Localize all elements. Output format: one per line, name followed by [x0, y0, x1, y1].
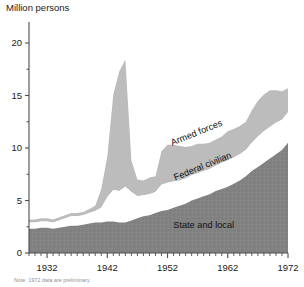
x-tick-labels: 19321942195219621972 — [36, 262, 298, 273]
y-tick-label: 5 — [17, 195, 22, 206]
y-tick-label: 10 — [11, 142, 22, 153]
y-tick-marks — [25, 43, 29, 253]
y-tick-label: 0 — [17, 247, 22, 258]
stacked-area-chart: 05101520 19321942195219621972 Armed forc… — [0, 0, 304, 287]
x-tick-label: 1972 — [277, 262, 298, 273]
x-tick-marks — [29, 253, 288, 258]
x-tick-label: 1932 — [36, 262, 57, 273]
source-note: Note: 1972 data are preliminary. — [14, 277, 91, 284]
x-tick-label: 1942 — [97, 262, 118, 273]
y-tick-labels: 05101520 — [11, 37, 22, 258]
series-annotation: State and local — [173, 220, 234, 230]
y-tick-label: 15 — [11, 90, 22, 101]
plot-area — [29, 60, 288, 253]
chart-figure: Million persons 05101520 193219421952196… — [0, 0, 304, 287]
x-tick-label: 1962 — [217, 262, 238, 273]
y-tick-label: 20 — [11, 37, 22, 48]
x-tick-label: 1952 — [157, 262, 178, 273]
